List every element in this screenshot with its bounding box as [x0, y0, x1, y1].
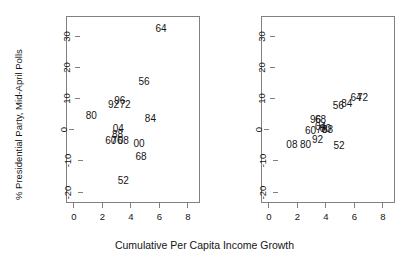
y-tick-mark: [270, 36, 275, 37]
data-point-label: 52: [333, 141, 344, 151]
y-tick-label: 0: [253, 127, 264, 132]
y-tick-label: 10: [61, 93, 72, 104]
y-tick-label: 30: [256, 31, 267, 42]
plot-area-left: 645696927280840488607608006852: [67, 17, 199, 202]
x-tick-label: 6: [352, 211, 357, 222]
data-point-label: 52: [118, 176, 129, 186]
y-tick-mark: [78, 192, 83, 193]
data-point-label: 56: [333, 101, 344, 111]
data-point-label: 64: [156, 24, 167, 34]
y-tick-label: 20: [61, 62, 72, 73]
data-point-label: 80: [86, 111, 97, 121]
y-tick-label: 0: [58, 127, 69, 132]
y-tick-label: -10: [62, 154, 73, 168]
x-tick-mark: [73, 203, 74, 208]
data-point-label: 92: [108, 100, 119, 110]
data-point-label: 08: [286, 140, 297, 150]
y-tick-label: -20: [257, 185, 268, 199]
plot-frame-right: 726484569668040076886092088052: [261, 16, 395, 203]
x-tick-label: 4: [323, 211, 328, 222]
data-point-label: 84: [145, 114, 156, 124]
x-tick-label: 0: [71, 211, 76, 222]
data-point-label: 92: [312, 135, 323, 145]
y-tick-mark: [75, 67, 80, 68]
data-point-label: 56: [138, 77, 149, 87]
data-point-label: 00: [133, 139, 144, 149]
x-tick-label: 6: [157, 211, 162, 222]
y-axis-label-left: % Presidential Party, Mid-April Polls: [13, 49, 24, 200]
data-point-label: 80: [300, 140, 311, 150]
x-tick-mark: [268, 203, 269, 208]
panel-right: % Presidential Party, Election Day Vote …: [205, 0, 409, 266]
y-tick-mark: [78, 160, 83, 161]
y-tick-mark: [270, 98, 275, 99]
y-tick-label: 20: [256, 62, 267, 73]
plot-frame-left: 645696927280840488607608006852: [66, 16, 200, 203]
x-tick-label: 4: [128, 211, 133, 222]
x-tick-label: 2: [295, 211, 300, 222]
y-tick-mark: [273, 192, 278, 193]
y-tick-label: 30: [61, 31, 72, 42]
y-tick-mark: [69, 129, 74, 130]
data-point-label: 68: [136, 152, 147, 162]
y-tick-mark: [264, 129, 269, 130]
figure-scatter-panels: % Presidential Party, Mid-April Polls 64…: [0, 0, 409, 266]
data-point-label: 08: [118, 136, 129, 146]
x-tick-label: 2: [100, 211, 105, 222]
y-tick-mark: [270, 67, 275, 68]
x-tick-mark: [187, 203, 188, 208]
x-tick-mark: [159, 203, 160, 208]
y-tick-mark: [75, 98, 80, 99]
y-tick-label: -10: [257, 154, 268, 168]
x-tick-mark: [354, 203, 355, 208]
panel-left: % Presidential Party, Mid-April Polls 64…: [0, 0, 205, 266]
y-tick-mark: [75, 36, 80, 37]
x-tick-mark: [325, 203, 326, 208]
x-axis-label: Cumulative Per Capita Income Growth: [0, 239, 409, 251]
x-tick-mark: [102, 203, 103, 208]
data-point-label: 72: [119, 100, 130, 110]
x-tick-label: 0: [266, 211, 271, 222]
x-tick-label: 8: [380, 211, 385, 222]
y-tick-mark: [273, 160, 278, 161]
y-tick-label: -20: [62, 185, 73, 199]
plot-area-right: 726484569668040076886092088052: [262, 17, 394, 202]
x-tick-mark: [382, 203, 383, 208]
x-tick-label: 8: [185, 211, 190, 222]
x-tick-mark: [297, 203, 298, 208]
x-tick-mark: [130, 203, 131, 208]
data-point-label: 88: [322, 125, 333, 135]
y-tick-label: 10: [256, 93, 267, 104]
